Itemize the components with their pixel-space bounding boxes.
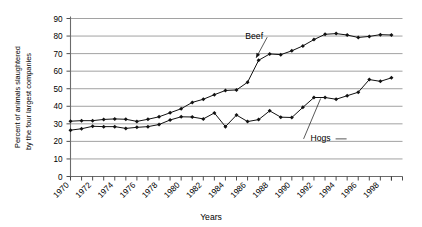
x-tick-label: 1980 <box>162 180 182 200</box>
data-point <box>201 97 205 101</box>
data-point <box>168 118 172 122</box>
series-beef <box>69 32 394 124</box>
data-point <box>102 125 106 129</box>
data-point <box>113 125 117 129</box>
data-point <box>190 115 194 119</box>
data-point <box>135 125 139 129</box>
y-tick-marks <box>67 19 71 177</box>
x-tick-label: 1976 <box>118 180 138 200</box>
hogs-series-label: Hogs <box>311 133 331 143</box>
x-tick-marks <box>71 177 403 181</box>
data-point <box>91 124 95 128</box>
y-tick-labels: 0102030405060708090 <box>53 15 63 182</box>
chart-container: Percent of animals slaughtered by the fo… <box>0 0 422 227</box>
data-series-layer <box>69 32 394 133</box>
data-point <box>257 58 261 62</box>
x-tick-label: 1994 <box>317 180 337 200</box>
data-point <box>312 38 316 42</box>
y-tick-label: 70 <box>53 50 63 59</box>
data-point <box>179 115 183 119</box>
data-point <box>135 119 139 123</box>
data-point <box>301 44 305 48</box>
x-tick-label: 1972 <box>74 180 94 200</box>
x-tick-label: 1984 <box>207 180 227 200</box>
y-axis-label-group: Percent of animals slaughtered by the fo… <box>13 46 33 150</box>
y-tick-label: 80 <box>53 32 63 41</box>
y-tick-label: 0 <box>58 173 63 182</box>
data-point <box>334 32 338 36</box>
x-tick-label: 1988 <box>251 180 271 200</box>
data-point <box>378 79 382 83</box>
data-point <box>168 111 172 115</box>
line-chart: Percent of animals slaughtered by the fo… <box>0 0 422 227</box>
data-point <box>345 94 349 98</box>
data-point <box>268 52 272 56</box>
x-tick-label: 1986 <box>229 180 249 200</box>
x-tick-label: 1970 <box>52 180 72 200</box>
data-point <box>113 117 117 121</box>
y-axis-label-line-1: Percent of animals slaughtered <box>13 46 22 148</box>
data-point <box>179 107 183 111</box>
x-tick-labels: 1970197219741976197819801982198419861988… <box>52 180 381 200</box>
data-point <box>190 100 194 104</box>
data-point <box>290 49 294 53</box>
hogs-annotation: Hogs <box>304 99 347 144</box>
beef-series-label: Beef <box>245 31 263 41</box>
y-tick-label: 30 <box>53 120 63 129</box>
x-tick-label: 1990 <box>273 180 293 200</box>
y-tick-label: 40 <box>53 102 63 111</box>
data-point <box>69 128 73 132</box>
data-point <box>146 125 150 129</box>
data-point <box>124 117 128 121</box>
data-point <box>80 127 84 131</box>
data-point <box>102 117 106 121</box>
y-tick-label: 90 <box>53 15 63 24</box>
data-point <box>80 119 84 123</box>
y-tick-label: 10 <box>53 155 63 164</box>
y-axis-label-line-2: by the four largest companies <box>24 53 33 150</box>
data-point <box>157 115 161 119</box>
y-tick-label: 50 <box>53 85 63 94</box>
series-line-hogs <box>71 78 392 130</box>
data-point <box>157 123 161 127</box>
x-tick-label: 1998 <box>362 180 382 200</box>
x-tick-label: 1974 <box>96 180 116 200</box>
series-line-beef <box>71 34 392 122</box>
data-point <box>201 117 205 121</box>
x-axis-title: Years <box>200 212 222 222</box>
x-tick-label: 1996 <box>339 180 359 200</box>
data-point <box>279 115 283 119</box>
data-point <box>323 96 327 100</box>
data-point <box>124 126 128 130</box>
data-point <box>69 119 73 123</box>
data-point <box>146 117 150 121</box>
data-point <box>212 93 216 97</box>
data-point <box>334 97 338 101</box>
data-point <box>367 34 371 38</box>
y-tick-label: 20 <box>53 137 63 146</box>
x-tick-label: 1992 <box>295 180 315 200</box>
x-tick-label: 1978 <box>140 180 160 200</box>
x-tick-label: 1982 <box>184 180 204 200</box>
y-tick-label: 60 <box>53 67 63 76</box>
data-point <box>91 119 95 123</box>
data-point <box>389 76 393 80</box>
